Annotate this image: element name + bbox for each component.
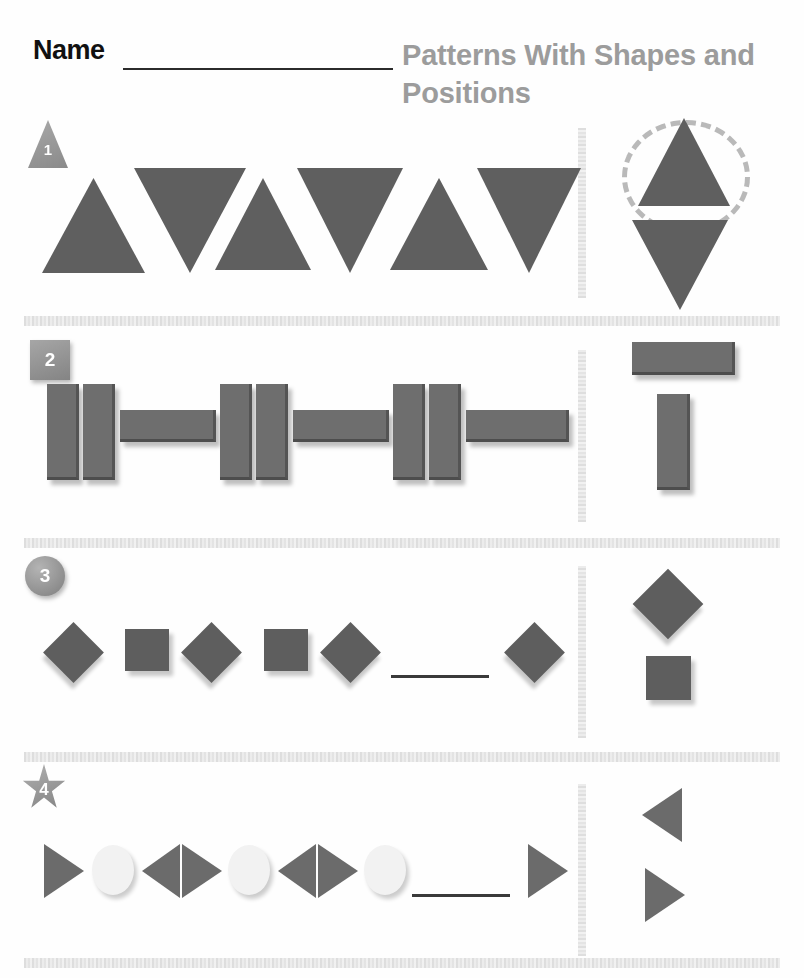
pattern-shape-diamond — [181, 622, 242, 683]
exercise-4: 4 — [0, 762, 804, 952]
pattern-shape-bar-vertical — [83, 384, 115, 480]
answer-choice-square[interactable] — [646, 656, 691, 700]
exercise-number-badge-3: 3 — [25, 556, 65, 596]
answer-column-separator-1 — [578, 128, 586, 298]
pattern-shape-triangle-right — [318, 844, 358, 898]
pattern-shape-diamond — [504, 622, 565, 683]
pattern-shape-triangle-down — [477, 168, 581, 273]
exercise-3: 3 — [0, 552, 804, 742]
exercise-2: 2 — [0, 332, 804, 530]
pattern-shape-bar-vertical — [256, 384, 288, 480]
pattern-shape-triangle-left — [142, 844, 180, 898]
pattern-shape-bar-vertical — [47, 384, 79, 480]
answer-choice-bar-vertical[interactable] — [657, 394, 690, 490]
pattern-shape-circle-white — [92, 845, 134, 895]
answer-column-separator-2 — [578, 350, 586, 522]
pattern-shape-bar-horizontal — [293, 410, 389, 442]
exercise-number-badge-2: 2 — [30, 340, 70, 380]
answer-choice-triangle-left[interactable] — [642, 788, 682, 842]
answer-blank-line-4[interactable] — [412, 894, 510, 897]
answer-column-separator-3 — [578, 566, 586, 738]
name-input-line[interactable] — [123, 68, 393, 70]
page-title: Patterns With Shapes and Positions — [402, 36, 792, 112]
pattern-shape-bar-vertical — [429, 384, 461, 480]
answer-blank-line-3[interactable] — [391, 675, 489, 678]
worksheet-page: Name Patterns With Shapes and Positions … — [0, 0, 804, 978]
answer-choice-bar-horizontal[interactable] — [632, 342, 735, 375]
footer-divider — [24, 958, 780, 968]
pattern-shape-triangle-left — [278, 844, 316, 898]
pattern-shape-circle-white — [364, 845, 406, 895]
name-label: Name — [33, 35, 105, 66]
pattern-shape-diamond — [43, 622, 104, 683]
pattern-shape-square — [264, 629, 308, 671]
pattern-shape-diamond — [320, 622, 381, 683]
pattern-shape-triangle-up — [42, 178, 145, 273]
worksheet-header: Name Patterns With Shapes and Positions — [0, 0, 804, 118]
pattern-shape-triangle-right — [528, 844, 568, 898]
answer-column-separator-4 — [578, 784, 586, 956]
section-divider — [24, 316, 780, 326]
answer-choice-diamond[interactable] — [633, 569, 704, 640]
exercise-number-badge-1: 1 — [28, 118, 68, 168]
pattern-shape-bar-horizontal — [120, 410, 216, 442]
answer-choice-triangle-down[interactable] — [632, 220, 728, 310]
pattern-shape-bar-vertical — [393, 384, 425, 480]
pattern-shape-square — [125, 629, 169, 671]
section-divider — [24, 752, 780, 762]
answer-choice-triangle-right[interactable] — [645, 868, 685, 922]
pattern-shape-triangle-down — [297, 168, 403, 273]
exercise-number-badge-4: 4 — [22, 764, 66, 812]
pattern-shape-bar-horizontal — [466, 410, 569, 442]
pattern-shape-bar-vertical — [220, 384, 252, 480]
pattern-shape-triangle-up — [390, 178, 488, 270]
pattern-shape-triangle-right — [182, 844, 222, 898]
exercise-1: 1 — [0, 110, 804, 310]
pattern-shape-circle-white — [228, 845, 270, 895]
section-divider — [24, 538, 780, 548]
pattern-shape-triangle-right — [44, 844, 84, 898]
